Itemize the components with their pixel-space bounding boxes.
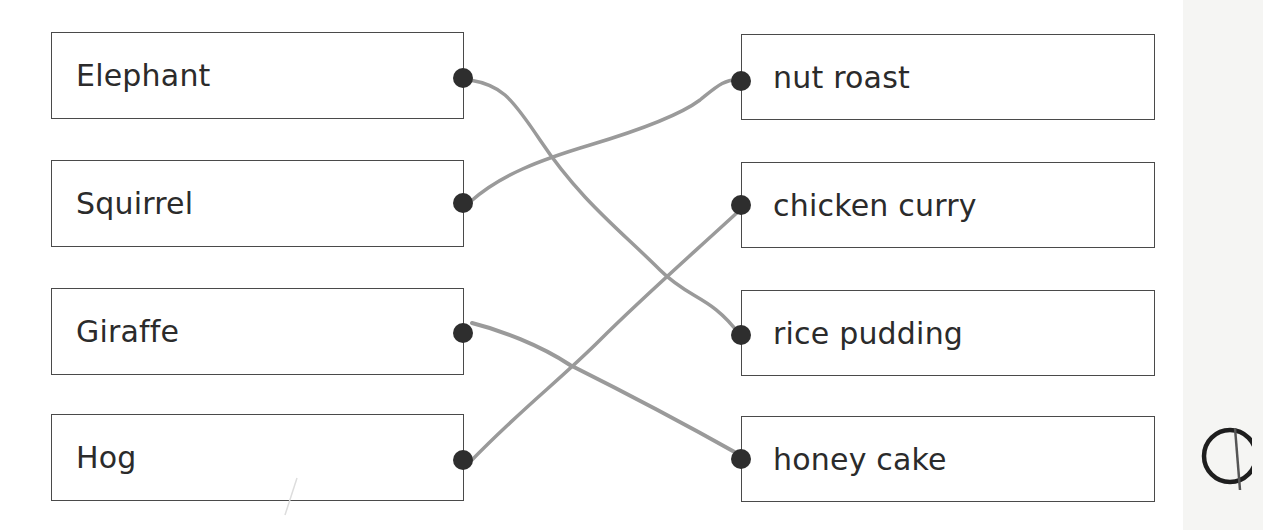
left-item-label: Elephant bbox=[76, 58, 211, 93]
line-hog-chicken-curry bbox=[470, 210, 740, 462]
right-item-honey-cake[interactable]: honey cake bbox=[741, 416, 1155, 502]
right-item-label: chicken curry bbox=[773, 188, 977, 223]
line-elephant-rice-pudding bbox=[470, 80, 740, 335]
right-item-label: honey cake bbox=[773, 442, 947, 477]
left-item-hog[interactable]: Hog bbox=[51, 414, 464, 501]
line-giraffe-honey-cake bbox=[472, 323, 740, 455]
left-item-squirrel[interactable]: Squirrel bbox=[51, 160, 464, 247]
left-item-elephant[interactable]: Elephant bbox=[51, 32, 464, 119]
left-item-label: Squirrel bbox=[76, 186, 193, 221]
left-item-label: Giraffe bbox=[76, 314, 179, 349]
left-item-giraffe[interactable]: Giraffe bbox=[51, 288, 464, 375]
left-item-label: Hog bbox=[76, 440, 137, 475]
right-item-rice-pudding[interactable]: rice pudding bbox=[741, 290, 1155, 376]
right-item-chicken-curry[interactable]: chicken curry bbox=[741, 162, 1155, 248]
right-item-nut-roast[interactable]: nut roast bbox=[741, 34, 1155, 120]
right-item-label: nut roast bbox=[773, 60, 910, 95]
grading-mark-icon bbox=[1200, 422, 1252, 492]
line-squirrel-nut-roast bbox=[470, 80, 740, 202]
right-item-label: rice pudding bbox=[773, 316, 963, 351]
